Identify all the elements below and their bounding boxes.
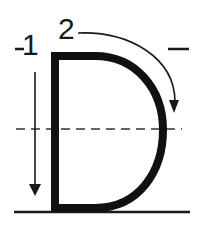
letter-d-shape: [55, 56, 163, 208]
letter-tracing-diagram: 1 2: [0, 0, 206, 226]
down-arrow-icon: [29, 184, 41, 196]
stroke-2-number: 2: [58, 14, 75, 44]
stroke-1-number: 1: [22, 30, 39, 60]
curve-arrow-head-icon: [169, 100, 179, 113]
